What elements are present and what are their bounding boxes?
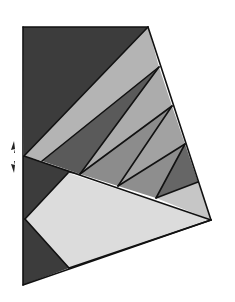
fold-arrows-icon <box>11 141 15 173</box>
diagram-regions <box>23 27 211 285</box>
fold-diagram <box>0 0 235 302</box>
